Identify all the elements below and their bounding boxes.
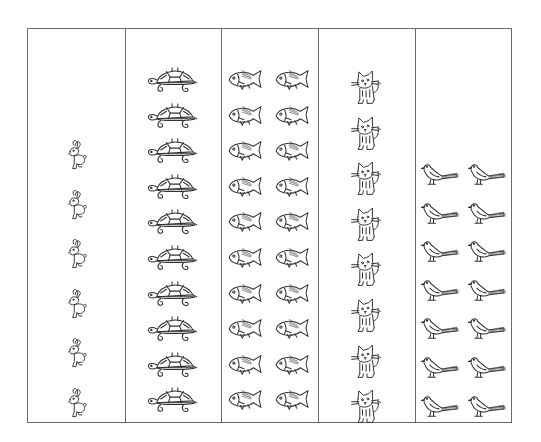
fish-icon (225, 101, 267, 129)
fish-icon (225, 207, 267, 235)
fish-icon (225, 65, 267, 93)
bird-icon (466, 315, 510, 343)
turtle-icon (145, 98, 203, 132)
fish-icon (272, 172, 314, 200)
bird-icon (466, 393, 510, 421)
cat-icon (349, 343, 385, 383)
fish-icon (225, 350, 267, 378)
column-rabbit (28, 29, 125, 422)
bird-icon (466, 161, 510, 189)
fish-icon (225, 385, 267, 413)
fish-icon (272, 314, 314, 342)
turtle-icon (145, 133, 203, 167)
turtle-icon (145, 347, 203, 381)
bird-icon (466, 200, 510, 228)
column-bird (415, 29, 512, 422)
fish-icon (272, 350, 314, 378)
bird-icon (419, 200, 463, 228)
bird-icon (466, 277, 510, 305)
cat-icon (349, 115, 385, 155)
turtle-icon (145, 276, 203, 310)
rabbit-icon (59, 384, 93, 422)
cat-icon (349, 160, 385, 200)
rabbit-icon (59, 186, 93, 224)
cat-icon (349, 251, 385, 291)
rabbit-icon (59, 334, 93, 372)
turtle-icon (145, 311, 203, 345)
fish-icon (225, 243, 267, 271)
cat-icon (349, 388, 385, 428)
fish-icon (225, 172, 267, 200)
fish-icon (272, 385, 314, 413)
bird-icon (419, 277, 463, 305)
rabbit-icon (59, 285, 93, 323)
cat-icon (349, 69, 385, 109)
turtle-icon (145, 240, 203, 274)
rabbit-icon (59, 235, 93, 273)
turtle-icon (145, 169, 203, 203)
turtle-icon (145, 382, 203, 416)
rabbit-icon (59, 136, 93, 174)
turtle-icon (145, 204, 203, 238)
fish-icon (272, 279, 314, 307)
fish-icon (272, 136, 314, 164)
column-cat (318, 29, 415, 422)
pictograph-table (27, 28, 512, 423)
bird-icon (419, 161, 463, 189)
bird-icon (466, 354, 510, 382)
fish-icon (225, 279, 267, 307)
fish-icon (272, 65, 314, 93)
fish-icon (225, 136, 267, 164)
column-fish (221, 29, 318, 422)
bird-icon (419, 354, 463, 382)
fish-icon (225, 314, 267, 342)
column-turtle (125, 29, 221, 422)
bird-icon (419, 315, 463, 343)
fish-icon (272, 243, 314, 271)
fish-icon (272, 207, 314, 235)
bird-icon (419, 238, 463, 266)
fish-icon (272, 101, 314, 129)
cat-icon (349, 297, 385, 337)
bird-icon (466, 238, 510, 266)
turtle-icon (145, 62, 203, 96)
bird-icon (419, 393, 463, 421)
cat-icon (349, 206, 385, 246)
